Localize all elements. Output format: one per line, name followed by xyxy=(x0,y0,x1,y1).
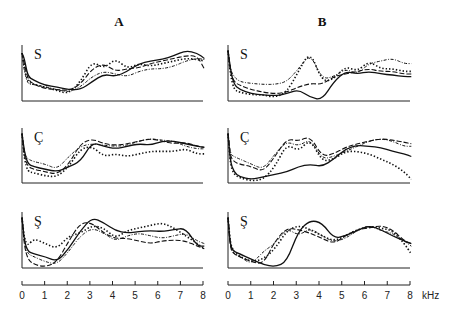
tick-label: 7 xyxy=(384,290,390,301)
series-solid xyxy=(22,218,204,260)
panel-label: S xyxy=(34,47,42,62)
panel-b-Ş: Ş xyxy=(228,212,411,268)
panel-label: Ç xyxy=(34,130,43,145)
x-axis-b: 012345678 xyxy=(225,281,413,301)
series-dash-dot xyxy=(228,51,411,85)
series-dashed xyxy=(228,218,411,264)
tick-label: 7 xyxy=(178,290,184,301)
series-solid xyxy=(22,134,204,171)
panel-a-Ş: Ş xyxy=(22,212,204,268)
series-dotted xyxy=(228,218,411,261)
panel-label: S xyxy=(240,47,248,62)
tick-label: 4 xyxy=(110,290,116,301)
panel-b-S: S xyxy=(228,45,411,101)
tick-label: 1 xyxy=(248,290,254,301)
column-title-b: B xyxy=(318,14,327,29)
series-dotted xyxy=(228,134,411,181)
tick-label: 8 xyxy=(407,290,413,301)
panel-label: Ş xyxy=(34,214,42,229)
series-dash-dot xyxy=(228,218,411,262)
tick-label: 5 xyxy=(339,290,345,301)
panel-axes xyxy=(228,128,410,183)
panel-a-Ç: Ç xyxy=(22,128,204,183)
series-solid xyxy=(228,51,411,99)
panels-group: SSÇÇŞŞ xyxy=(22,45,411,268)
tick-label: 6 xyxy=(155,290,161,301)
tick-label: 6 xyxy=(362,290,368,301)
series-dotted xyxy=(22,53,204,92)
frequency-axes: 012345678012345678 xyxy=(19,281,413,301)
tick-label: 3 xyxy=(293,290,299,301)
tick-label: 1 xyxy=(42,290,48,301)
series-dotted xyxy=(22,218,204,249)
series-dashed xyxy=(22,53,204,90)
tick-label: 0 xyxy=(19,290,25,301)
tick-label: 5 xyxy=(132,290,138,301)
tick-label: 2 xyxy=(271,290,277,301)
series-solid xyxy=(228,134,411,179)
x-axis-a: 012345678 xyxy=(19,281,206,301)
tick-label: 4 xyxy=(316,290,322,301)
series-dashed xyxy=(22,134,204,174)
tick-label: 3 xyxy=(87,290,93,301)
panel-label: Ş xyxy=(240,214,248,229)
series-dashed xyxy=(228,51,411,94)
tick-label: 2 xyxy=(64,290,70,301)
series-solid xyxy=(228,218,411,267)
unit-label: kHz xyxy=(422,290,439,301)
panel-a-S: S xyxy=(22,45,204,101)
panel-b-Ç: Ç xyxy=(228,128,411,183)
spectra-figure: A B SSÇÇŞŞ 012345678012345678 kHz xyxy=(0,0,461,315)
tick-label: 8 xyxy=(200,290,206,301)
column-title-a: A xyxy=(114,14,124,29)
tick-label: 0 xyxy=(225,290,231,301)
panel-label: Ç xyxy=(240,130,249,145)
